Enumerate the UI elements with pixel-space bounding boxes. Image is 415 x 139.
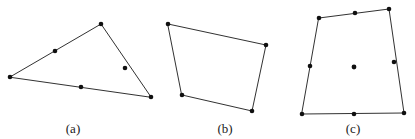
panel-label-a: (a): [66, 121, 80, 136]
point-marker-b-3: [180, 93, 185, 98]
panel-label-c: (c): [346, 121, 360, 136]
polygon-outline-b: [168, 24, 266, 111]
point-marker-a-2: [99, 22, 104, 27]
point-marker-a-1: [53, 49, 58, 54]
panel-label-b: (b): [217, 121, 232, 136]
figure-container: (a)(b)(c): [0, 0, 415, 139]
panel-b: [166, 22, 269, 114]
point-marker-a-5: [79, 85, 84, 90]
point-marker-c-7: [308, 64, 313, 69]
point-marker-a-0: [8, 75, 13, 80]
point-marker-a-4: [149, 95, 154, 100]
panels-layer: [8, 7, 407, 117]
labels-layer: (a)(b)(c): [66, 121, 360, 136]
point-marker-c-6: [300, 112, 305, 117]
point-marker-c-5: [352, 112, 357, 117]
point-marker-b-0: [166, 22, 171, 27]
panel-a: [8, 22, 154, 100]
point-marker-c-4: [402, 111, 407, 116]
point-marker-c-2: [387, 7, 392, 12]
point-marker-c-3: [392, 60, 397, 65]
point-marker-a-3: [123, 66, 128, 71]
point-marker-c-8: [352, 65, 357, 70]
panel-c: [300, 7, 407, 117]
polygon-diagram: (a)(b)(c): [0, 0, 415, 139]
point-marker-c-1: [353, 11, 358, 16]
point-marker-b-2: [250, 109, 255, 114]
polygon-outline-c: [302, 9, 404, 114]
point-marker-b-1: [264, 43, 269, 48]
point-marker-c-0: [317, 16, 322, 21]
